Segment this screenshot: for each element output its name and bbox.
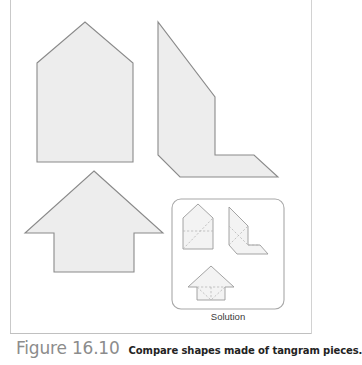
solution-piece-l-chevron <box>229 207 268 254</box>
page-rule-bottom <box>10 333 311 334</box>
figure-caption-text: Compare shapes made of tangram pieces. <box>129 346 362 356</box>
shape-l-shape-chevron <box>158 22 278 177</box>
shape-up-arrow-pentagon <box>25 171 163 272</box>
solution-piece-house <box>183 204 213 249</box>
solution-piece-up-arrow <box>188 266 234 300</box>
figure-artwork: Solution <box>0 0 322 332</box>
figure-caption: Figure 16.10 Compare shapes made of tang… <box>16 340 314 362</box>
shape-house-pentagon <box>37 22 133 162</box>
tangram-shapes-svg <box>0 0 322 332</box>
solution-label: Solution <box>172 311 284 322</box>
figure-number: Figure 16.10 <box>16 340 120 357</box>
